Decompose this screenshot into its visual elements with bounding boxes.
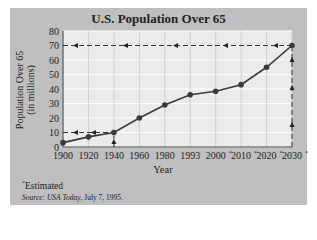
data-point <box>213 88 219 94</box>
data-point <box>86 134 92 140</box>
y-tick-label: 30 <box>49 98 59 109</box>
y-axis-label-line1: Population Over 65 <box>14 51 25 129</box>
data-point <box>264 64 270 70</box>
y-tick-label: 50 <box>49 69 59 80</box>
x-tick-label: 2000 <box>206 150 226 161</box>
y-tick-label: 60 <box>49 55 59 66</box>
source-publication: USA Today <box>47 193 81 202</box>
x-tick-label: 2020 <box>257 150 277 161</box>
x-tick-label: 2010 <box>231 150 251 161</box>
data-point <box>162 102 168 108</box>
footnote: *Estimated <box>22 180 63 191</box>
x-tick-label: 2030 <box>282 150 302 161</box>
y-axis-label: Population Over 65 (in millions) <box>14 51 36 129</box>
data-point <box>111 130 117 136</box>
y-tick-label: 20 <box>49 113 59 124</box>
x-tick-label: 1993 <box>180 150 200 161</box>
x-tick-label: 1920 <box>78 150 98 161</box>
x-tick-label: 1980 <box>155 150 175 161</box>
data-point <box>289 43 295 49</box>
y-tick-label: 80 <box>49 26 59 37</box>
data-point <box>60 140 66 146</box>
y-tick-label: 10 <box>49 127 59 138</box>
footnote-text: Estimated <box>25 181 63 191</box>
x-tick-label: 1900 <box>53 150 73 161</box>
x-axis-label: Year <box>153 164 172 175</box>
estimate-asterisk: * <box>305 150 308 156</box>
data-point <box>238 82 244 88</box>
y-tick-label: 70 <box>49 40 59 51</box>
source-prefix: Source: <box>22 193 47 202</box>
source-date: , July 7, 1995. <box>80 193 123 202</box>
x-tick-label: 1940 <box>104 150 124 161</box>
data-point <box>187 92 193 98</box>
x-tick-label: 1960 <box>129 150 149 161</box>
y-tick-label: 40 <box>49 84 59 95</box>
y-axis-label-line2: (in millions) <box>25 51 36 129</box>
data-point <box>137 115 143 121</box>
source-citation: Source: USA Today, July 7, 1995. <box>22 193 123 202</box>
